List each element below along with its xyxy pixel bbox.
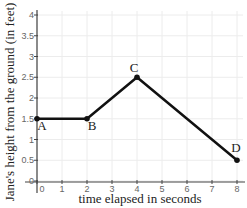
grid (37, 11, 243, 181)
y-tick-label: 1 (29, 135, 34, 145)
point-label-d: D (231, 140, 240, 155)
x-tick-label: 8 (234, 184, 239, 194)
data-point-c (134, 74, 140, 80)
data-point-d (234, 157, 240, 163)
y-tick-label: 3 (29, 52, 34, 62)
y-tick-label: 1.5 (21, 114, 34, 124)
x-axis-label: time elapsed in seconds (78, 191, 201, 206)
x-tick-label: 0 (39, 184, 44, 194)
y-tick-label: 0 (29, 176, 34, 186)
y-axis-label: Jane's height from the ground (in feet) (2, 3, 17, 202)
point-label-c: C (130, 60, 139, 75)
y-tick-label: 2.5 (21, 72, 34, 82)
y-tick-label: 2 (29, 93, 34, 103)
chart: 012345678 00.511.522.533.54 ABCD time el… (0, 0, 247, 208)
y-tick-label: 4 (29, 10, 34, 20)
point-label-b: B (88, 118, 97, 133)
point-label-a: A (37, 118, 47, 133)
y-tick-label: 3.5 (21, 31, 34, 41)
y-tick-labels: 00.511.522.533.54 (21, 10, 38, 186)
y-tick-label: 0.5 (21, 155, 34, 165)
x-tick-label: 1 (59, 184, 64, 194)
x-tick-label: 7 (209, 184, 214, 194)
